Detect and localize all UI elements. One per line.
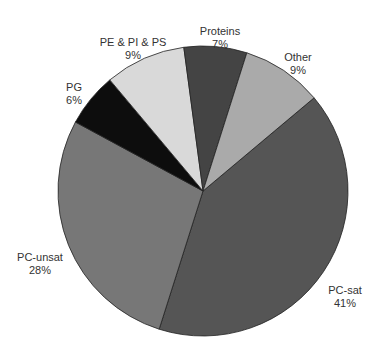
slice-name: Proteins [200,25,240,38]
slice-label-pc-unsat: PC-unsat28% [17,251,63,277]
slice-percent: 28% [17,264,63,277]
slice-name: PC-sat [328,284,362,297]
slice-percent: 9% [284,64,312,77]
pie-chart [0,0,380,351]
slice-label-pg: PG6% [66,81,82,107]
slice-name: PE & PI & PS [100,36,167,49]
slice-percent: 9% [100,49,167,62]
slice-percent: 7% [200,38,240,51]
slice-name: PG [66,81,82,94]
slice-label-pe-pi-ps: PE & PI & PS9% [100,36,167,62]
slice-label-proteins: Proteins7% [200,25,240,51]
slice-name: PC-unsat [17,251,63,264]
slice-name: Other [284,51,312,64]
slice-percent: 6% [66,94,82,107]
slice-label-other: Other9% [284,51,312,77]
slice-percent: 41% [328,297,362,310]
slice-label-pc-sat: PC-sat41% [328,284,362,310]
